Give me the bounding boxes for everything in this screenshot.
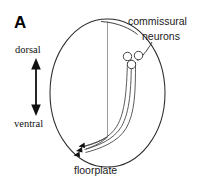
commissural-neuron-somas (123, 51, 142, 68)
growth-cone-group (74, 143, 86, 158)
schematic-canvas: A dorsal ventral (0, 0, 197, 183)
commissural-axon-bundle (84, 60, 136, 153)
commissural-neurons-label-line2: neurons (142, 30, 180, 42)
neuron-soma-3 (127, 60, 135, 68)
arrow-head-ventral-icon (31, 105, 41, 117)
panel-letter-label: A (14, 13, 26, 32)
neuron-soma-1 (123, 52, 131, 60)
ventral-label: ventral (14, 118, 43, 129)
dorsal-label: dorsal (15, 44, 41, 55)
commissural-neurons-label-line1: commissural (128, 15, 187, 27)
dorsal-ventral-arrow (31, 58, 41, 116)
neuron-soma-2 (134, 51, 142, 59)
floorplate-label: floorplate (74, 164, 117, 176)
figure-panel-a: A dorsal ventral (0, 0, 197, 183)
arrow-head-dorsal-icon (31, 58, 41, 70)
axon-1 (84, 62, 128, 147)
